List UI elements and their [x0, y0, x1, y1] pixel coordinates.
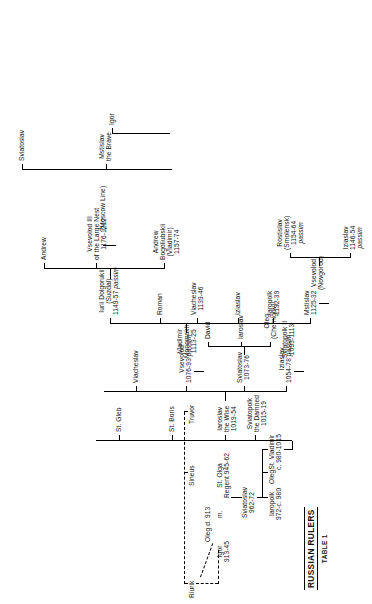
node-label-2: the Wise [223, 406, 230, 432]
branch-viacheslav1 [136, 386, 137, 392]
node-rostislav-smolensk: Rostislav (Smolensk) 1154-64 passim [276, 216, 304, 250]
branch-oleg-chernigov [270, 342, 271, 347]
dashed-stem-sineus [184, 472, 188, 473]
title-table: TABLE 1 [321, 507, 328, 590]
rail-top-right-cluster [22, 169, 172, 170]
stem-iurii-right [110, 269, 111, 279]
node-label-2: (Smolensk) [283, 216, 290, 250]
node-label: St. Gleb [115, 407, 122, 432]
branch-sviatoslav3 [22, 164, 23, 170]
node-dates: 1125-32 [310, 290, 317, 315]
page-title: RUSSIAN RULERS TABLE 1 [300, 507, 328, 590]
node-label: (Moscow Line) [99, 186, 106, 230]
node-dates: Regent 945-62 [223, 453, 230, 498]
node-marriage-mark: m. [216, 510, 223, 518]
node-label: Sviatopolk II [281, 321, 288, 358]
node-label: Sviatopolk [246, 395, 253, 432]
node-label: Iaropolk [268, 488, 275, 520]
node-roman: Roman [156, 293, 163, 315]
node-label: Igor [108, 113, 115, 125]
branch-iaroslav2 [241, 342, 242, 347]
branch-andrew [44, 263, 45, 269]
node-riurik: Riurik [188, 581, 195, 598]
node-iaropolk-1132: Iaropolk 1132-39 [266, 291, 280, 315]
node-label: St. Olga [216, 453, 223, 498]
node-sviatoslav-3: Sviatoslav [18, 130, 25, 161]
rail-sviatoslav2-children [208, 346, 270, 347]
node-label: Oleg [268, 470, 275, 484]
node-dates: 1015-19 [260, 395, 267, 432]
node-label-2: Bogoliubskii [159, 224, 166, 260]
link-mstislav1-to-vsevolodnov [319, 303, 329, 304]
link-vsevolod3-to-moscow [103, 245, 116, 246]
node-oleg-2: Oleg [268, 470, 275, 484]
branch-andrew-bogoliubskii [164, 263, 165, 269]
vladimir-rail-connect [292, 441, 293, 450]
node-label: Vsevolod III [86, 208, 93, 260]
node-label: Riurik [188, 581, 195, 598]
rail-igor2 [112, 133, 170, 134]
title-main: RUSSIAN RULERS [304, 507, 318, 590]
branch-igor2 [112, 128, 113, 134]
node-label: Mstislav [98, 132, 105, 161]
node-dates: 1154-64 [290, 216, 297, 250]
dashed-stem-riurik [184, 583, 188, 584]
node-label: Iaropolk [266, 291, 273, 315]
node-label: Igor [216, 541, 223, 562]
node-dates: 1146-54 [349, 226, 356, 250]
node-iaroslav-wise: Iaroslav the Wise 1019-54 [216, 406, 237, 432]
sibling-bar-sviatoslav-children [262, 450, 263, 498]
stem-monomakh-right [186, 324, 187, 333]
node-label: Iziaslav [342, 226, 349, 250]
node-dates: 1113-25 [190, 325, 197, 358]
branch-vsevolod3 [96, 263, 97, 269]
node-passim: passim [356, 226, 363, 250]
branch-iaroslav-wise [225, 435, 226, 441]
node-label-3: (Vladimir) [166, 224, 173, 260]
node-label: Sviatoslav [18, 130, 25, 161]
branch-stboris [172, 435, 173, 441]
branch-iziaslav3 [350, 253, 351, 258]
rail-vsevolodnov-children [290, 257, 350, 258]
node-igor-2: Igor [108, 113, 115, 125]
node-mstislav-the-brave: Mstislav the Brave [98, 132, 112, 161]
branch-sviatoslav2 [244, 386, 245, 392]
node-label: Sineus [188, 465, 195, 486]
node-label: Sviatoslav [236, 352, 243, 383]
node-label: Vsevolod [310, 256, 317, 290]
node-label: Iurii Dolgorukii [98, 267, 105, 315]
branch-sviatopolk1 [255, 435, 256, 441]
node-moscow-line: (Moscow Line) [99, 186, 106, 230]
node-dates: 1073-76 [243, 352, 250, 383]
node-label: Iaroslav [216, 406, 223, 432]
node-label: Andrew [40, 237, 47, 260]
node-dates: 1132-39 [273, 291, 280, 315]
vladimir-children-rail-v [96, 440, 292, 441]
node-sviatopolk-damned: Sviatopolk the Damned 1015-19 [246, 395, 267, 432]
node-label: Viacheslav [190, 282, 197, 315]
node-iurii-dolgorukii: Iurii Dolgorukii (Suzdal) 1149-57 passim [98, 267, 119, 315]
node-viacheslav-1139: Viacheslav 1139-46 [190, 282, 204, 315]
rail-iaroslav-children [104, 391, 286, 392]
node-label: m. [216, 510, 223, 518]
link-vsevolod1-to-monomakh [194, 371, 204, 372]
node-andrew-bogoliubskii: Andrew Bogoliubskii (Vladimir) 1157-74 [152, 224, 180, 260]
node-label-2: the Damned [253, 395, 260, 432]
node-label: Andrew [152, 224, 159, 260]
branch-iaropolk2 [273, 318, 274, 324]
branch-rostislav [290, 253, 291, 258]
node-sineus: Sineus [188, 465, 195, 486]
node-label: Sviatoslav [241, 487, 248, 518]
node-st-olga: St. Olga Regent 945-62 [216, 453, 230, 498]
node-dates: 1093-1113 [288, 321, 295, 358]
link-iziaslav1-to-sviatopolk2 [294, 371, 304, 372]
node-label: Iziaslav [234, 292, 241, 315]
node-viacheslav-1: Viacheslav [132, 350, 139, 383]
dashed-descent-riurik [196, 583, 218, 584]
node-dates: 962-72 [248, 487, 255, 518]
node-st-gleb: St. Gleb [115, 407, 122, 432]
node-sviatopolk-ii: Sviatopolk II 1093-1113 [281, 321, 295, 358]
node-label: Mstislav [303, 290, 310, 315]
node-sviatoslav-962: Sviatoslav 962-72 [241, 487, 255, 518]
stem-iaroslav-wise-right [225, 392, 226, 401]
